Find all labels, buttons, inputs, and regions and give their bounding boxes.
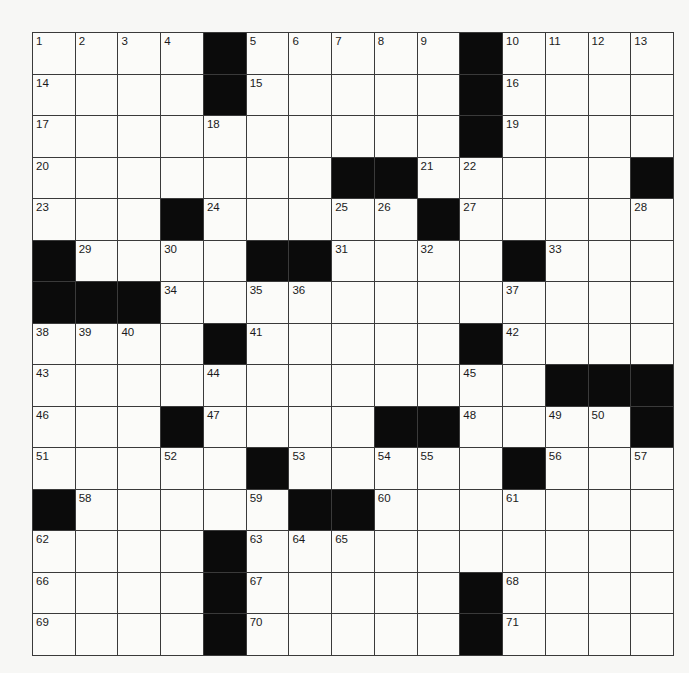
crossword-cell[interactable]: [418, 116, 460, 157]
crossword-cell[interactable]: 68: [503, 573, 545, 614]
crossword-cell[interactable]: [631, 116, 673, 157]
crossword-cell[interactable]: [118, 448, 160, 489]
crossword-cell[interactable]: [332, 324, 374, 365]
crossword-cell[interactable]: 69: [33, 614, 75, 655]
crossword-cell[interactable]: 29: [76, 241, 118, 282]
crossword-cell[interactable]: [460, 448, 502, 489]
crossword-cell[interactable]: [375, 282, 417, 323]
crossword-cell[interactable]: [76, 116, 118, 157]
crossword-cell[interactable]: 13: [631, 33, 673, 74]
crossword-cell[interactable]: [631, 614, 673, 655]
crossword-cell[interactable]: 42: [503, 324, 545, 365]
crossword-cell[interactable]: 22: [460, 158, 502, 199]
crossword-cell[interactable]: [589, 324, 631, 365]
crossword-cell[interactable]: 20: [33, 158, 75, 199]
crossword-cell[interactable]: 49: [546, 407, 588, 448]
crossword-cell[interactable]: 45: [460, 365, 502, 406]
crossword-cell[interactable]: [631, 573, 673, 614]
crossword-cell[interactable]: [118, 531, 160, 572]
crossword-cell[interactable]: 6: [289, 33, 331, 74]
crossword-cell[interactable]: 48: [460, 407, 502, 448]
crossword-cell[interactable]: [589, 282, 631, 323]
crossword-cell[interactable]: [118, 116, 160, 157]
crossword-cell[interactable]: [546, 490, 588, 531]
crossword-cell[interactable]: [247, 365, 289, 406]
crossword-cell[interactable]: [118, 490, 160, 531]
crossword-cell[interactable]: [161, 490, 203, 531]
crossword-cell[interactable]: [546, 75, 588, 116]
crossword-cell[interactable]: [332, 365, 374, 406]
crossword-cell[interactable]: [76, 531, 118, 572]
crossword-cell[interactable]: [460, 490, 502, 531]
crossword-cell[interactable]: [289, 158, 331, 199]
crossword-cell[interactable]: [503, 158, 545, 199]
crossword-cell[interactable]: [289, 199, 331, 240]
crossword-cell[interactable]: [247, 116, 289, 157]
crossword-cell[interactable]: 53: [289, 448, 331, 489]
crossword-cell[interactable]: 62: [33, 531, 75, 572]
crossword-cell[interactable]: 8: [375, 33, 417, 74]
crossword-cell[interactable]: [546, 531, 588, 572]
crossword-cell[interactable]: 36: [289, 282, 331, 323]
crossword-cell[interactable]: [332, 407, 374, 448]
crossword-cell[interactable]: [546, 116, 588, 157]
crossword-cell[interactable]: [503, 407, 545, 448]
crossword-cell[interactable]: [247, 158, 289, 199]
crossword-cell[interactable]: 21: [418, 158, 460, 199]
crossword-cell[interactable]: [289, 573, 331, 614]
crossword-cell[interactable]: [589, 531, 631, 572]
crossword-cell[interactable]: [118, 573, 160, 614]
crossword-cell[interactable]: [76, 75, 118, 116]
crossword-cell[interactable]: 63: [247, 531, 289, 572]
crossword-cell[interactable]: [418, 490, 460, 531]
crossword-cell[interactable]: [76, 614, 118, 655]
crossword-cell[interactable]: 28: [631, 199, 673, 240]
crossword-cell[interactable]: [161, 75, 203, 116]
crossword-cell[interactable]: [204, 448, 246, 489]
crossword-cell[interactable]: 11: [546, 33, 588, 74]
crossword-cell[interactable]: [418, 324, 460, 365]
crossword-cell[interactable]: [332, 448, 374, 489]
crossword-cell[interactable]: [118, 75, 160, 116]
crossword-cell[interactable]: 33: [546, 241, 588, 282]
crossword-cell[interactable]: 24: [204, 199, 246, 240]
crossword-cell[interactable]: [546, 282, 588, 323]
crossword-cell[interactable]: [503, 531, 545, 572]
crossword-cell[interactable]: [460, 241, 502, 282]
crossword-cell[interactable]: [332, 573, 374, 614]
crossword-cell[interactable]: [546, 573, 588, 614]
crossword-cell[interactable]: [204, 158, 246, 199]
crossword-cell[interactable]: 58: [76, 490, 118, 531]
crossword-cell[interactable]: 43: [33, 365, 75, 406]
crossword-cell[interactable]: [289, 614, 331, 655]
crossword-cell[interactable]: 17: [33, 116, 75, 157]
crossword-cell[interactable]: [118, 614, 160, 655]
crossword-cell[interactable]: [289, 324, 331, 365]
crossword-cell[interactable]: [76, 448, 118, 489]
crossword-cell[interactable]: [204, 241, 246, 282]
crossword-cell[interactable]: 25: [332, 199, 374, 240]
crossword-cell[interactable]: [546, 614, 588, 655]
crossword-cell[interactable]: [332, 116, 374, 157]
crossword-cell[interactable]: 3: [118, 33, 160, 74]
crossword-cell[interactable]: [631, 490, 673, 531]
crossword-cell[interactable]: 54: [375, 448, 417, 489]
crossword-cell[interactable]: [76, 407, 118, 448]
crossword-cell[interactable]: [503, 199, 545, 240]
crossword-cell[interactable]: [589, 75, 631, 116]
crossword-cell[interactable]: [589, 614, 631, 655]
crossword-cell[interactable]: [375, 573, 417, 614]
crossword-cell[interactable]: 34: [161, 282, 203, 323]
crossword-cell[interactable]: 7: [332, 33, 374, 74]
crossword-cell[interactable]: [161, 614, 203, 655]
crossword-cell[interactable]: 59: [247, 490, 289, 531]
crossword-cell[interactable]: 1: [33, 33, 75, 74]
crossword-cell[interactable]: 38: [33, 324, 75, 365]
crossword-cell[interactable]: [546, 158, 588, 199]
crossword-cell[interactable]: [546, 199, 588, 240]
crossword-cell[interactable]: 66: [33, 573, 75, 614]
crossword-cell[interactable]: 52: [161, 448, 203, 489]
crossword-cell[interactable]: [161, 531, 203, 572]
crossword-cell[interactable]: [375, 241, 417, 282]
crossword-cell[interactable]: [118, 407, 160, 448]
